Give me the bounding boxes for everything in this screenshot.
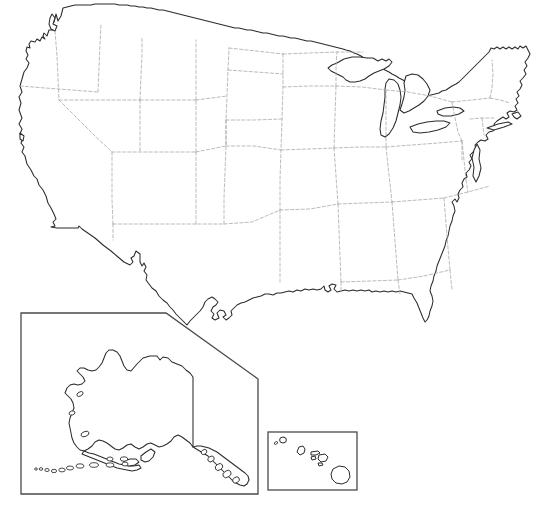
island-hawaii-big-island — [331, 466, 350, 484]
alaska-inset — [21, 313, 258, 494]
cape-cod — [512, 112, 521, 119]
island-oahu — [297, 446, 305, 455]
island-kauai — [280, 437, 287, 443]
kenai-peninsula — [141, 449, 155, 462]
island-niihau — [274, 441, 278, 445]
island-lanai — [311, 456, 316, 460]
island-maui — [318, 454, 328, 462]
us-outline-map — [0, 0, 544, 532]
map-canvas — [0, 0, 544, 532]
island-molokai — [311, 451, 320, 455]
island-kahoolawe — [318, 463, 323, 466]
hawaii-inset — [268, 432, 357, 490]
hawaiian-islands — [274, 437, 350, 484]
contiguous-us-group — [19, 4, 530, 325]
lower-48-landmass-outline — [19, 4, 530, 325]
